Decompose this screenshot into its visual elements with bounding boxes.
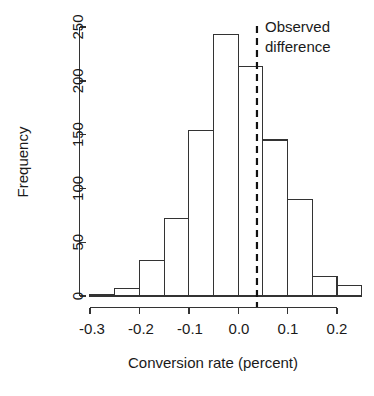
x-tick-label-0.2: 0.2 [327,320,348,337]
bar-bin-6 [214,35,239,296]
bar-bin-4 [164,219,189,296]
bar-bin-5 [189,130,214,296]
bar-bin-8 [263,140,288,296]
y-axis [80,27,87,296]
bar-bin-11 [337,285,362,296]
observed-difference-annotation: Observed difference [265,18,331,55]
y-tick-label-150: 150 [69,122,86,147]
plot-canvas: 250 200 150 100 50 0 Frequency [0,0,374,396]
bar-bin-2 [115,288,140,296]
bar-bin-10 [312,277,337,296]
x-tick-label--0.3: -0.3 [79,320,105,337]
x-axis [90,308,337,315]
annotation-line-2: difference [265,38,331,55]
bar-bin-1 [90,295,115,296]
bar-bin-9 [288,199,313,296]
histogram-figure: 250 200 150 100 50 0 Frequency [0,0,374,396]
x-tick-label--0.1: -0.1 [177,320,203,337]
y-tick-label-200: 200 [69,68,86,93]
y-tick-label-50: 50 [69,234,86,251]
y-axis-title: Frequency [14,126,31,197]
bar-bin-7 [238,67,263,296]
annotation-line-1: Observed [265,18,330,35]
x-tick-label--0.2: -0.2 [128,320,154,337]
x-tick-label-0.1: 0.1 [278,320,299,337]
y-tick-label-100: 100 [69,176,86,201]
x-tick-labels: -0.3 -0.2 -0.1 0.0 0.1 0.2 [79,320,347,337]
x-tick-label-0.0: 0.0 [229,320,250,337]
y-tick-label-250: 250 [69,14,86,39]
histogram-bars [90,35,362,296]
y-tick-label-0: 0 [69,292,86,300]
bar-bin-3 [139,260,164,296]
x-axis-title: Conversion rate (percent) [128,354,298,371]
y-tick-labels: 250 200 150 100 50 0 [69,14,86,300]
